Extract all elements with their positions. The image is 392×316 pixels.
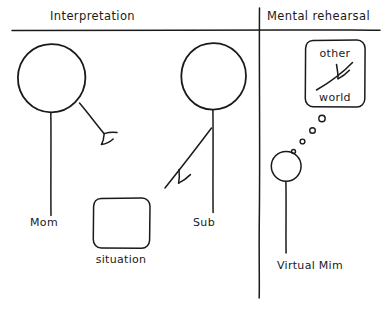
situation-box bbox=[93, 198, 150, 248]
thought-bubble-3 bbox=[300, 139, 305, 144]
thought-bubble-1 bbox=[319, 115, 325, 121]
thought-bubble-trail bbox=[292, 115, 326, 153]
mom-label: Mom bbox=[30, 216, 58, 229]
panel-title-interpretation: Interpretation bbox=[50, 9, 135, 23]
mom-head bbox=[18, 44, 86, 112]
other-label: other bbox=[320, 47, 351, 60]
sub-head bbox=[181, 43, 246, 109]
hand-drawn-diagram: Interpretation Mental rehearsal Mom situ… bbox=[0, 0, 392, 316]
mom-hand-upper bbox=[104, 132, 117, 133]
figure-mom: Mom bbox=[18, 44, 117, 229]
situation-box-group: situation bbox=[93, 198, 150, 266]
virtual-mim-label: Virtual Mim bbox=[277, 259, 343, 272]
other-world-arrow-shaft bbox=[317, 63, 353, 91]
situation-label: situation bbox=[96, 253, 147, 266]
header-rule bbox=[12, 30, 380, 31]
sub-arm bbox=[165, 128, 212, 188]
sub-arrowhead-right bbox=[179, 175, 191, 184]
figure-virtual-mim: Virtual Mim bbox=[271, 151, 343, 272]
mom-arm bbox=[80, 103, 105, 134]
diagram-canvas: Interpretation Mental rehearsal Mom situ… bbox=[0, 0, 392, 316]
virtual-mim-head bbox=[271, 151, 301, 181]
thought-bubble-2 bbox=[310, 128, 316, 134]
sub-arrowhead-left bbox=[179, 170, 180, 184]
world-label: world bbox=[319, 91, 351, 104]
mom-hand-lower bbox=[101, 134, 113, 145]
sub-label: Sub bbox=[193, 216, 215, 229]
other-world-box-group: other world bbox=[305, 40, 365, 107]
figure-sub: Sub bbox=[165, 43, 246, 229]
panel-title-mental-rehearsal: Mental rehearsal bbox=[267, 9, 370, 23]
